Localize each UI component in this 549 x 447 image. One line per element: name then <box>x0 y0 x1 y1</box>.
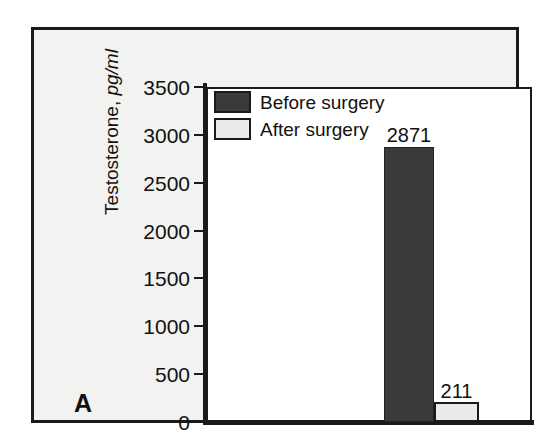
y-axis-tick-label: 2000 <box>118 220 190 241</box>
legend-item-before-surgery[interactable]: Before surgery <box>214 90 385 114</box>
legend-label-before-surgery: Before surgery <box>260 93 385 112</box>
bar-before-surgery[interactable]: 2871 <box>384 147 434 422</box>
y-axis-tick-label: 1500 <box>118 268 190 289</box>
y-axis-tick-label: 500 <box>118 364 190 385</box>
bar-value-before-surgery: 2871 <box>387 125 432 145</box>
y-axis-tick-label: 1000 <box>118 316 190 337</box>
legend-swatch-before-surgery <box>214 91 251 113</box>
y-axis-tick-label: 3000 <box>118 124 190 145</box>
legend-item-after-surgery[interactable]: After surgery <box>214 117 385 141</box>
bar-after-surgery[interactable]: 211 <box>434 402 479 422</box>
legend-label-after-surgery: After surgery <box>260 120 369 139</box>
figure-panel-a: A Testosterone, pg/ml 050010001500200025… <box>0 0 549 447</box>
panel-label: A <box>74 391 92 416</box>
chart-outer-frame: A Testosterone, pg/ml 050010001500200025… <box>31 27 519 423</box>
bar-value-after-surgery: 211 <box>441 381 473 401</box>
chart-legend: Before surgery After surgery <box>214 90 385 141</box>
y-axis-tick-label: 3500 <box>118 77 190 98</box>
legend-swatch-after-surgery <box>214 118 251 140</box>
y-axis-tick-labels: 0500100015002000250030003500 <box>118 87 190 422</box>
y-axis-tick-label: 2500 <box>118 172 190 193</box>
y-axis-tick-label: 0 <box>118 412 190 433</box>
